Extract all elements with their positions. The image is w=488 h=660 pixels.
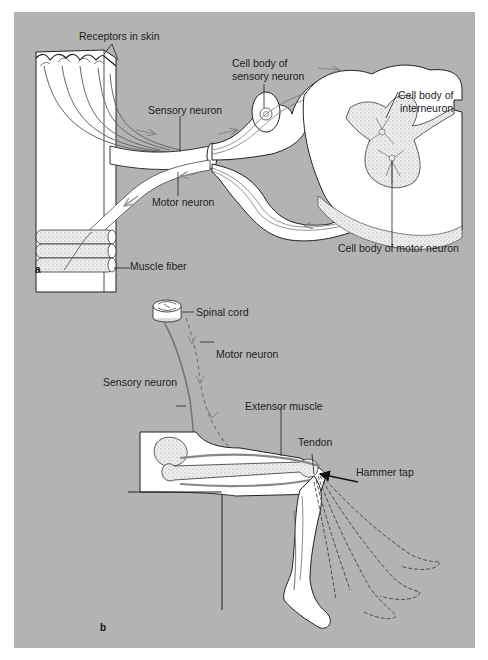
label-cell-body-interneuron-1: Cell body of bbox=[398, 89, 453, 101]
panel-letter-a: a bbox=[35, 264, 41, 275]
label-sensory-neuron-a: Sensory neuron bbox=[148, 104, 222, 116]
label-cell-body-sensory-2: sensory neuron bbox=[232, 70, 304, 82]
label-muscle-fiber: Muscle fiber bbox=[130, 260, 187, 272]
muscle-fiber-bundle bbox=[36, 230, 116, 272]
label-receptors-in-skin: Receptors in skin bbox=[79, 30, 160, 42]
label-cell-body-interneuron-2: interneuron bbox=[400, 102, 453, 114]
panel-b bbox=[128, 300, 440, 628]
label-tendon: Tendon bbox=[298, 436, 332, 448]
label-motor-neuron-a: Motor neuron bbox=[152, 196, 214, 208]
spinal-cord-disc bbox=[153, 300, 194, 322]
hip-bone bbox=[154, 437, 187, 466]
label-hammer-tap: Hammer tap bbox=[356, 466, 414, 478]
panel-letter-b: b bbox=[100, 622, 106, 633]
label-sensory-neuron-b: Sensory neuron bbox=[103, 376, 177, 388]
dorsal-root-ganglion bbox=[252, 92, 280, 132]
label-motor-neuron-b: Motor neuron bbox=[216, 348, 278, 360]
label-extensor-muscle: Extensor muscle bbox=[245, 400, 323, 412]
label-cell-body-sensory-1: Cell body of bbox=[232, 57, 287, 69]
label-cell-body-motor-neuron: Cell body of motor neuron bbox=[338, 242, 459, 254]
leg-swing-outlines bbox=[314, 476, 440, 619]
lower-leg bbox=[284, 476, 331, 628]
label-spinal-cord: Spinal cord bbox=[196, 306, 249, 318]
